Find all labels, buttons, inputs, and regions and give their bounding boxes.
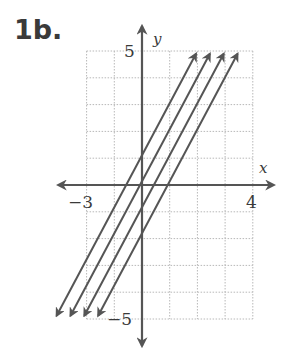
coordinate-plane: x y −3 4 5 −5	[0, 0, 286, 356]
axes	[58, 26, 274, 346]
x-axis-label: x	[259, 159, 268, 177]
x-min-label: −3	[68, 192, 93, 212]
y-axis-label: y	[152, 30, 162, 48]
y-min-label: −5	[107, 309, 132, 329]
y-max-label: 5	[124, 41, 135, 61]
x-max-label: 4	[246, 192, 257, 212]
